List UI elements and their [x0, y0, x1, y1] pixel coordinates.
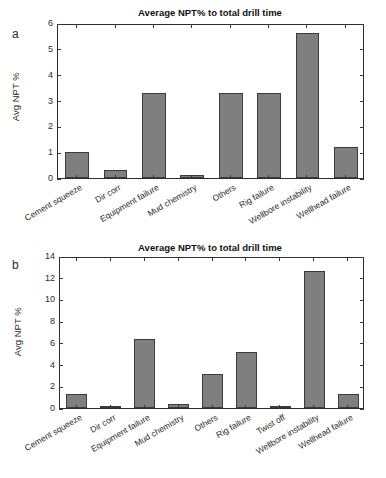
bar: [296, 33, 320, 178]
bar: [134, 339, 155, 408]
x-tick-mark: [268, 24, 269, 28]
chart-title-a: Average NPT% to total drill time: [55, 8, 365, 18]
y-tick-label: 1: [23, 148, 53, 157]
y-tick-label: 4: [23, 71, 53, 80]
x-tick-mark: [245, 405, 246, 409]
panel-letter-a: a: [12, 28, 19, 40]
y-tick-mark: [360, 24, 364, 25]
x-tick-mark: [212, 257, 213, 261]
y-tick-mark: [57, 24, 61, 25]
bar: [334, 147, 358, 178]
x-tick-mark: [110, 257, 111, 261]
bar: [219, 93, 243, 178]
plot-area-a: [57, 24, 364, 179]
bar: [142, 93, 166, 178]
x-tick-mark: [153, 175, 154, 179]
y-tick-mark: [360, 387, 364, 388]
y-tick-label: 12: [25, 274, 55, 283]
x-tick-mark: [76, 405, 77, 409]
bar: [270, 406, 291, 408]
plot-area-b: [59, 257, 364, 409]
bars-container-a: [58, 25, 363, 178]
y-tick-mark: [360, 153, 364, 154]
y-tick-label: 14: [25, 252, 55, 261]
y-tick-mark: [59, 278, 63, 279]
y-tick-mark: [59, 387, 63, 388]
y-tick-mark: [360, 257, 364, 258]
bar: [338, 394, 359, 408]
y-tick-label: 2: [23, 122, 53, 131]
x-tick-mark: [191, 175, 192, 179]
x-tick-mark: [115, 24, 116, 28]
x-tick-mark: [345, 24, 346, 28]
y-tick-mark: [360, 101, 364, 102]
x-tick-mark: [245, 257, 246, 261]
bar: [304, 271, 325, 408]
bar: [257, 93, 281, 178]
x-tick-mark: [178, 405, 179, 409]
y-tick-mark: [59, 322, 63, 323]
y-tick-label: 5: [23, 45, 53, 54]
y-tick-mark: [360, 49, 364, 50]
y-tick-mark: [57, 153, 61, 154]
y-tick-label: 8: [25, 317, 55, 326]
x-tick-mark: [345, 175, 346, 179]
x-tick-mark: [347, 257, 348, 261]
y-tick-label: 6: [23, 19, 53, 28]
y-tick-mark: [360, 300, 364, 301]
y-axis-label-b: Avg NPT %: [13, 292, 23, 372]
x-tick-mark: [76, 257, 77, 261]
x-tick-mark: [153, 24, 154, 28]
y-tick-mark: [360, 409, 364, 410]
y-tick-label: 0: [25, 404, 55, 413]
chart-panel-b: b Average NPT% to total drill time Avg N…: [0, 239, 386, 478]
x-tick-mark: [212, 405, 213, 409]
x-tick-mark: [230, 24, 231, 28]
y-tick-label: 10: [25, 295, 55, 304]
x-tick-mark: [306, 175, 307, 179]
y-tick-label: 4: [25, 361, 55, 370]
y-tick-mark: [360, 322, 364, 323]
x-tick-mark: [279, 257, 280, 261]
y-tick-mark: [360, 179, 364, 180]
x-tick-mark: [313, 405, 314, 409]
x-tick-mark: [230, 175, 231, 179]
chart-panel-a: a Average NPT% to total drill time Avg N…: [0, 0, 386, 239]
y-tick-mark: [360, 365, 364, 366]
y-tick-label: 0: [23, 174, 53, 183]
y-tick-label: 6: [25, 339, 55, 348]
y-tick-mark: [360, 278, 364, 279]
x-tick-mark: [306, 24, 307, 28]
y-tick-mark: [59, 343, 63, 344]
x-tick-mark: [313, 257, 314, 261]
x-tick-mark: [268, 175, 269, 179]
y-tick-mark: [57, 101, 61, 102]
y-tick-label: 3: [23, 97, 53, 106]
y-tick-mark: [57, 179, 61, 180]
chart-title-b: Average NPT% to total drill time: [55, 243, 365, 253]
x-tick-mark: [279, 405, 280, 409]
x-tick-mark: [76, 175, 77, 179]
x-tick-mark: [144, 257, 145, 261]
y-tick-mark: [59, 257, 63, 258]
x-tick-mark: [144, 405, 145, 409]
y-tick-mark: [59, 300, 63, 301]
bar: [66, 394, 87, 408]
x-tick-mark: [115, 175, 116, 179]
y-tick-mark: [59, 365, 63, 366]
y-tick-mark: [57, 127, 61, 128]
y-tick-mark: [59, 409, 63, 410]
x-tick-mark: [191, 24, 192, 28]
bar: [202, 374, 223, 408]
y-tick-mark: [360, 343, 364, 344]
x-tick-mark: [110, 405, 111, 409]
y-axis-label-a: Avg NPT %: [11, 57, 21, 137]
y-tick-label: 2: [25, 382, 55, 391]
panel-letter-b: b: [12, 259, 19, 271]
y-tick-mark: [57, 75, 61, 76]
bars-container-b: [60, 258, 363, 408]
x-tick-mark: [178, 257, 179, 261]
y-tick-mark: [57, 49, 61, 50]
x-tick-mark: [347, 405, 348, 409]
x-tick-mark: [76, 24, 77, 28]
